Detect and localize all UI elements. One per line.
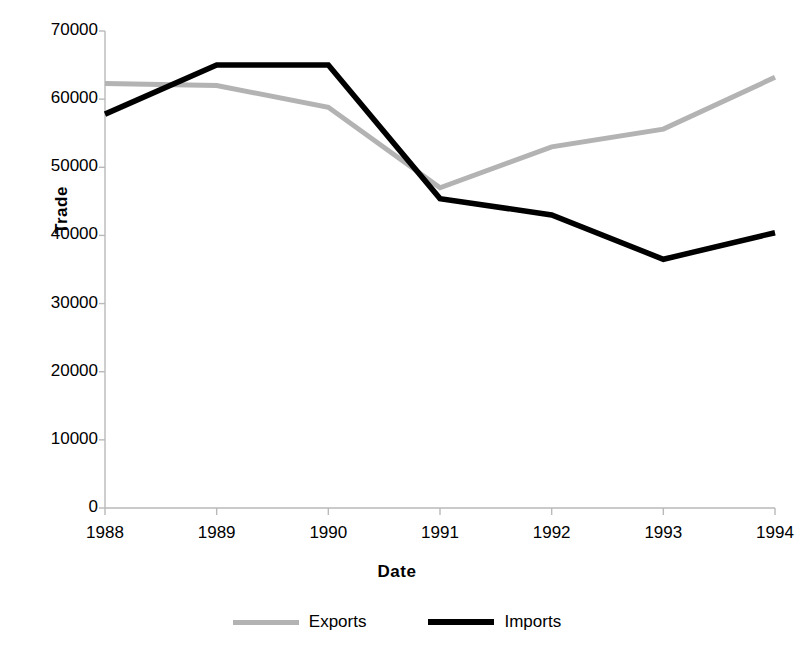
x-axis-title: Date: [0, 562, 794, 582]
chart-legend: ExportsImports: [0, 612, 794, 632]
legend-swatch-imports: [428, 619, 494, 625]
series-line-imports: [105, 65, 775, 259]
legend-item-exports: Exports: [233, 612, 367, 632]
legend-swatch-exports: [233, 620, 299, 625]
legend-label-exports: Exports: [309, 612, 367, 632]
legend-label-imports: Imports: [504, 612, 561, 632]
series-line-exports: [105, 77, 775, 187]
legend-item-imports: Imports: [428, 612, 561, 632]
